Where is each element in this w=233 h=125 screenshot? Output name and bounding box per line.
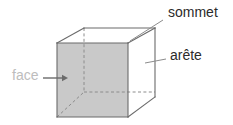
cube-front-face-shaded xyxy=(57,43,128,117)
label-sommet: sommet xyxy=(168,4,218,20)
label-face: face xyxy=(12,67,39,83)
cube-figure: sommet arête face xyxy=(0,0,233,125)
cube-diagram-svg: sommet arête face xyxy=(0,0,233,125)
label-arete: arête xyxy=(170,47,202,63)
